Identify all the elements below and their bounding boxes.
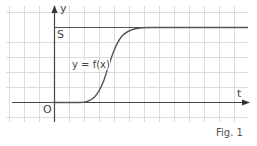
asymptote-label: S [57,29,64,40]
y-axis-label: y [60,3,67,14]
figure-caption: Fig. 1 [216,128,243,138]
x-axis-arrow-icon [242,100,250,106]
origin-label: O [43,104,52,115]
y-axis-arrow-icon [52,5,58,13]
curve-label: y = f(x) [72,60,110,70]
sigmoid-chart [0,0,257,146]
x-axis-label: t [237,88,241,99]
